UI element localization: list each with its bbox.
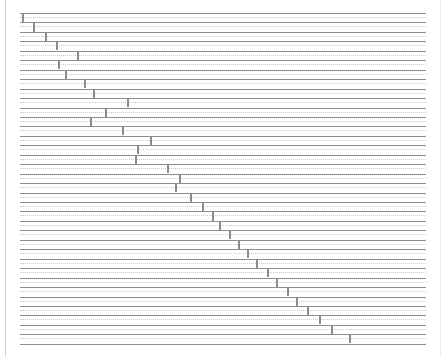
gridline-dotted (20, 234, 426, 235)
gridline-solid (20, 51, 426, 52)
bar-marker[interactable] (33, 23, 35, 32)
gridline-solid (20, 183, 426, 184)
chart-row (20, 41, 426, 50)
chart-row (20, 155, 426, 164)
gridline-solid (20, 41, 426, 42)
bar-marker[interactable] (267, 269, 269, 278)
gridline-solid (20, 278, 426, 279)
bar-marker[interactable] (212, 212, 214, 221)
gridline-dotted (20, 253, 426, 254)
bar-marker[interactable] (179, 174, 181, 183)
chart-row (20, 79, 426, 88)
gridline-solid (20, 13, 426, 14)
chart-row (20, 297, 426, 306)
chart-row (20, 315, 426, 324)
gridline-solid (20, 155, 426, 156)
gridline-solid (20, 89, 426, 90)
chart-row (20, 117, 426, 126)
bar-marker[interactable] (167, 165, 169, 174)
gridline-solid (20, 325, 426, 326)
gridline-solid (20, 145, 426, 146)
chart-row (20, 136, 426, 145)
panel-right-border (440, 0, 441, 357)
bar-marker[interactable] (84, 80, 86, 89)
gridline-solid (20, 306, 426, 307)
gridline-dotted (20, 159, 426, 160)
gridline-solid (20, 60, 426, 61)
bar-marker[interactable] (175, 184, 177, 193)
bar-marker[interactable] (65, 70, 67, 79)
bar-marker[interactable] (127, 99, 129, 108)
gridline-solid (20, 240, 426, 241)
gridline-solid (20, 174, 426, 175)
gridline-dotted (20, 17, 426, 18)
bar-marker[interactable] (90, 117, 92, 126)
bar-marker[interactable] (77, 51, 79, 60)
gridline-solid (20, 297, 426, 298)
chart-row (20, 240, 426, 249)
chart-row (20, 51, 426, 60)
gridline-solid (20, 70, 426, 71)
bar-marker[interactable] (105, 108, 107, 117)
bar-marker[interactable] (296, 297, 298, 306)
bar-marker[interactable] (137, 146, 139, 155)
gridline-dotted (20, 197, 426, 198)
gridline-dotted (20, 64, 426, 65)
bar-marker[interactable] (256, 259, 258, 268)
chart-canvas (0, 0, 443, 357)
gridline-dotted (20, 74, 426, 75)
gridline-solid (20, 259, 426, 260)
chart-row (20, 98, 426, 107)
gridline-solid (20, 108, 426, 109)
chart-row (20, 334, 426, 343)
bar-marker[interactable] (58, 61, 60, 70)
chart-row (20, 193, 426, 202)
chart-row (20, 287, 426, 296)
gridline-dotted (20, 291, 426, 292)
bar-marker[interactable] (229, 231, 231, 240)
bar-marker[interactable] (56, 42, 58, 51)
bar-marker[interactable] (219, 221, 221, 230)
bar-marker[interactable] (247, 250, 249, 259)
bar-marker[interactable] (319, 316, 321, 325)
gridline-dotted (20, 149, 426, 150)
chart-row (20, 32, 426, 41)
bar-marker[interactable] (150, 136, 152, 145)
bar-marker[interactable] (307, 306, 309, 315)
chart-row (20, 174, 426, 183)
bar-marker[interactable] (331, 325, 333, 334)
chart-row (20, 278, 426, 287)
gridline-dotted (20, 112, 426, 113)
bar-marker[interactable] (276, 278, 278, 287)
gridline-solid (20, 249, 426, 250)
bar-marker[interactable] (190, 193, 192, 202)
gridline-solid (20, 136, 426, 137)
gridline-dotted (20, 225, 426, 226)
bar-marker[interactable] (93, 89, 95, 98)
bar-marker[interactable] (22, 14, 24, 23)
bar-marker[interactable] (238, 240, 240, 249)
bar-marker[interactable] (287, 288, 289, 297)
gridline-solid (20, 268, 426, 269)
gridline-dotted (20, 263, 426, 264)
gridline-solid (20, 334, 426, 335)
bar-marker[interactable] (45, 32, 47, 41)
chart-row (20, 325, 426, 334)
gridline-dotted (20, 187, 426, 188)
chart-row (20, 249, 426, 258)
bar-marker[interactable] (135, 155, 137, 164)
gridline-dotted (20, 130, 426, 131)
gridline-solid (20, 32, 426, 33)
gridline-dotted (20, 45, 426, 46)
gridline-solid (20, 221, 426, 222)
gridline-dotted (20, 36, 426, 37)
chart-row (20, 183, 426, 192)
gridline-solid (20, 22, 426, 23)
gridline-dotted (20, 338, 426, 339)
bar-marker[interactable] (202, 203, 204, 212)
bar-marker[interactable] (122, 127, 124, 136)
chart-row (20, 202, 426, 211)
bar-marker[interactable] (349, 335, 351, 344)
gridline-solid (20, 211, 426, 212)
gridline-solid (20, 79, 426, 80)
